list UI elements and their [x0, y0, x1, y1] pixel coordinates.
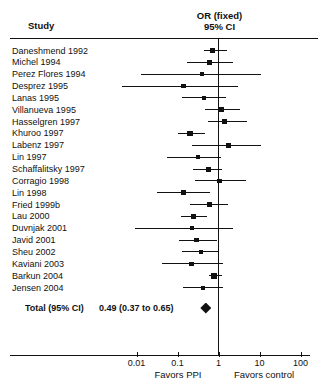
point-estimate-marker: [191, 214, 196, 219]
axis-tick-mark: [178, 352, 179, 357]
study-label: Lau 2000: [12, 211, 50, 221]
study-label: Barkun 2004: [12, 271, 63, 281]
study-label: Desprez 1995: [12, 81, 68, 91]
point-estimate-marker: [189, 262, 194, 267]
study-label: Lin 1997: [12, 152, 47, 162]
study-label: Javid 2001: [12, 235, 56, 245]
axis-tick-mark: [301, 352, 302, 357]
axis-tick-label: 0.1: [171, 358, 184, 368]
study-label: Jensen 2004: [12, 283, 64, 293]
ci-line: [135, 228, 233, 229]
effect-column-header-line2: 95% CI: [204, 22, 235, 32]
point-estimate-marker: [196, 155, 201, 160]
favors-right-label: Favors control: [234, 369, 294, 380]
x-axis-line: [10, 355, 310, 356]
axis-tick-label: 10: [254, 358, 264, 368]
study-label: Villanueva 1995: [12, 105, 76, 115]
point-estimate-marker: [187, 131, 193, 137]
ci-line: [208, 121, 247, 122]
forest-plot-figure: Study OR (fixed) 95% CI Daneshmend 1992M…: [0, 0, 319, 391]
study-label: Michel 1994: [12, 57, 61, 67]
point-estimate-marker: [217, 179, 222, 184]
study-label: Hasselgren 1997: [12, 117, 80, 127]
axis-tick-mark: [137, 352, 138, 357]
axis-tick-label: 0.01: [128, 358, 146, 368]
study-label: Labenz 1997: [12, 140, 64, 150]
point-estimate-marker: [222, 119, 227, 124]
point-estimate-marker: [219, 107, 224, 112]
study-label: Lanas 1995: [12, 93, 59, 103]
point-estimate-marker: [199, 250, 204, 255]
study-label: Fried 1999b: [12, 200, 60, 210]
header-separator-line: [10, 38, 318, 39]
point-estimate-marker: [200, 72, 204, 76]
ci-line: [204, 50, 226, 51]
axis-tick-label: 1: [216, 358, 221, 368]
point-estimate-marker: [181, 190, 186, 195]
study-label: Corragio 1998: [12, 176, 69, 186]
study-column-header: Study: [28, 21, 54, 31]
axis-tick-label: 100: [293, 358, 308, 368]
total-diamond-marker: [200, 303, 211, 314]
favors-left-label: Favors PPI: [155, 369, 202, 380]
effect-column-header-line1: OR (fixed): [197, 11, 242, 21]
point-estimate-marker: [207, 202, 212, 207]
study-label: Daneshmend 1992: [12, 46, 88, 56]
point-estimate-marker: [201, 286, 205, 290]
total-estimate-text: 0.49 (0.37 to 0.65): [99, 303, 174, 313]
point-estimate-marker: [190, 226, 194, 230]
study-label: Khuroo 1997: [12, 128, 64, 138]
study-label: Perez Flores 1994: [12, 69, 86, 79]
total-label: Total (95% CI): [25, 303, 84, 313]
study-label: Lin 1998: [12, 188, 47, 198]
point-estimate-marker: [210, 48, 215, 53]
point-estimate-marker: [181, 84, 186, 89]
point-estimate-marker: [207, 60, 212, 65]
study-label: Sheu 2002: [12, 247, 56, 257]
axis-tick-mark: [219, 352, 220, 357]
point-estimate-marker: [211, 273, 217, 279]
study-label: Kaviani 2003: [12, 259, 64, 269]
study-label: Schaffalitsky 1997: [12, 164, 85, 174]
ci-line: [122, 86, 238, 87]
point-estimate-marker: [206, 167, 211, 172]
point-estimate-marker: [226, 143, 231, 148]
point-estimate-marker: [194, 238, 199, 243]
study-label: Duvnjak 2001: [12, 223, 67, 233]
ci-line: [167, 157, 221, 158]
point-estimate-marker: [202, 96, 207, 101]
axis-tick-mark: [260, 352, 261, 357]
